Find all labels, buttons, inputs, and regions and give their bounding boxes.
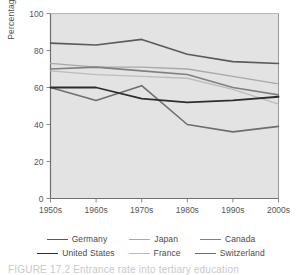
legend-label-canada: Canada (225, 234, 255, 244)
chart-legend: Germany Japan Canada United States Franc… (0, 232, 302, 260)
legend-swatch-united-states (37, 253, 58, 254)
legend-label-france: France (154, 248, 181, 258)
x-tick-label: 1960s (85, 205, 108, 215)
legend-swatch-germany (47, 239, 68, 240)
legend-row-1: Germany Japan Canada (0, 232, 302, 246)
legend-swatch-japan (129, 239, 150, 240)
legend-label-germany: Germany (72, 234, 108, 244)
legend-label-switzerland: Switzerland (220, 248, 265, 258)
legend-item-canada[interactable]: Canada (200, 234, 255, 244)
y-tick-label: 20 (34, 157, 44, 167)
legend-row-2: United States France Switzerland (0, 246, 302, 260)
x-tick-label: 1970s (130, 205, 153, 215)
legend-swatch-canada (200, 239, 221, 240)
legend-item-france[interactable]: France (129, 248, 181, 258)
line-chart: 0204060801001950s1960s1970s1980s1990s200… (0, 0, 302, 232)
x-tick-label: 1990s (221, 205, 244, 215)
y-tick-label: 80 (34, 46, 44, 56)
legend-item-switzerland[interactable]: Switzerland (195, 248, 265, 258)
y-tick-label: 60 (34, 83, 44, 93)
legend-item-united-states[interactable]: United States (37, 248, 114, 258)
x-tick-label: 2000s (267, 205, 290, 215)
legend-swatch-switzerland (195, 253, 216, 254)
legend-item-germany[interactable]: Germany (47, 234, 108, 244)
y-axis-label: Percentage (6, 0, 16, 62)
legend-swatch-france (129, 253, 150, 254)
y-tick-label: 100 (29, 9, 43, 19)
y-tick-label: 40 (34, 120, 44, 130)
legend-label-united-states: United States (62, 248, 114, 258)
y-tick-label: 0 (39, 194, 44, 204)
x-tick-label: 1950s (39, 205, 62, 215)
figure-caption: FIGURE 17.2 Entrance rate into tertiary … (8, 264, 298, 275)
legend-item-japan[interactable]: Japan (129, 234, 178, 244)
legend-label-japan: Japan (154, 234, 178, 244)
x-tick-label: 1980s (176, 205, 199, 215)
